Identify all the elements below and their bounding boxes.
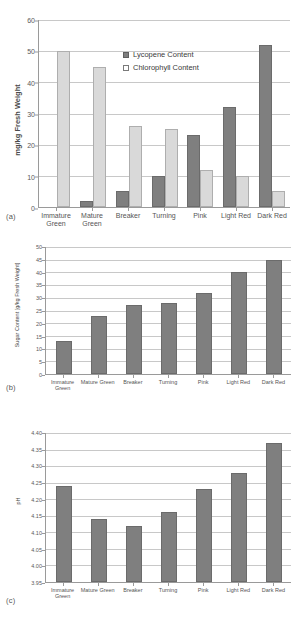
x-axis-category-label: Pink — [186, 379, 221, 392]
bar-group — [221, 247, 256, 374]
x-axis-category-label: Dark Red — [256, 587, 291, 600]
bar-series-a — [39, 20, 290, 207]
bar — [93, 67, 106, 207]
legend-entry: Chlorophyll Content — [123, 63, 199, 72]
y-tick-label: 25 — [36, 308, 42, 314]
bar-series-b — [46, 247, 291, 374]
y-tick-label: 4.15 — [31, 513, 42, 519]
y-tick-label: 15 — [36, 334, 42, 340]
bar-group — [46, 247, 81, 374]
x-axis-category-label: Immature Green — [45, 379, 80, 392]
y-tick-label: 4.35 — [31, 447, 42, 453]
figure-container: (a) mg/kg Fresh Weight 0102030405060 Imm… — [0, 0, 304, 625]
bar — [223, 107, 236, 207]
bar — [187, 135, 200, 207]
x-axis-category-label: Immature Green — [45, 587, 80, 600]
y-tick-label: 30 — [27, 111, 35, 118]
bar-group — [147, 20, 183, 207]
bar-group — [256, 247, 291, 374]
y-tick-label: 10 — [27, 173, 35, 180]
bar-group — [111, 20, 147, 207]
y-tick-label: 40 — [27, 79, 35, 86]
chart-panel-a: (a) mg/kg Fresh Weight 0102030405060 Imm… — [0, 0, 304, 232]
bar — [129, 126, 142, 207]
x-axis-category-label: Immature Green — [38, 212, 74, 228]
legend-swatch-lycopene — [123, 52, 129, 58]
y-tick-label: 4.40 — [31, 430, 42, 436]
bar — [196, 489, 212, 582]
bar — [126, 526, 142, 582]
x-axis-category-label: Mature Green — [80, 379, 115, 392]
bar — [231, 473, 247, 582]
x-axis-category-label: Light Red — [221, 379, 256, 392]
y-tick-label: 0 — [31, 205, 35, 212]
bar — [152, 176, 165, 207]
x-axis-labels-b: Immature GreenMature GreenBreakerTurning… — [45, 379, 291, 392]
x-axis-category-label: Dark Red — [254, 212, 290, 228]
bar — [57, 51, 70, 207]
bar-series-c — [46, 433, 291, 582]
panel-label-a: (a) — [6, 212, 16, 221]
y-tick-label: 4.20 — [31, 497, 42, 503]
y-tick-label: 50 — [36, 244, 42, 250]
bar — [91, 519, 107, 582]
plot-area-c — [45, 433, 291, 583]
panel-label-c: (c) — [6, 596, 15, 605]
x-axis-labels-a: Immature GreenMature GreenBreakerTurning… — [38, 212, 290, 228]
y-tick-label: 45 — [36, 257, 42, 263]
bar — [236, 176, 249, 207]
bar — [200, 170, 213, 207]
x-axis-category-label: Mature Green — [80, 587, 115, 600]
y-tick-label: 50 — [27, 48, 35, 55]
bar — [161, 512, 177, 582]
x-axis-category-label: Breaker — [115, 587, 150, 600]
y-tick-label: 20 — [36, 321, 42, 327]
legend-a: Lycopene ContentChlorophyll Content — [123, 50, 199, 76]
bar — [266, 260, 282, 374]
legend-label: Lycopene Content — [133, 50, 194, 59]
x-axis-category-label: Turning — [146, 212, 182, 228]
y-tick-label: 40 — [36, 270, 42, 276]
y-axis-ticks-c: 3.954.004.054.104.154.204.254.304.354.40 — [14, 433, 42, 583]
y-tick-label: 4.10 — [31, 530, 42, 536]
bar — [272, 191, 285, 207]
x-axis-category-label: Pink — [182, 212, 218, 228]
legend-swatch-chlorophyll — [123, 65, 129, 71]
bar — [126, 305, 142, 374]
x-axis-category-label: Breaker — [110, 212, 146, 228]
chart-panel-b: (b) Sugar Content [g/kg Fresh Weight] 05… — [0, 235, 304, 405]
y-tick-label: 3.95 — [31, 580, 42, 586]
x-axis-labels-c: Immature GreenMature GreenBreakerTurning… — [45, 587, 291, 600]
bar-group — [218, 20, 254, 207]
bar-group — [46, 433, 81, 582]
chart-panel-c: (c) pH 3.954.004.054.104.154.204.254.304… — [0, 408, 304, 623]
y-tick-label: 4.25 — [31, 480, 42, 486]
y-tick-label: 0 — [39, 372, 42, 378]
bar-group — [182, 20, 218, 207]
y-tick-label: 35 — [36, 282, 42, 288]
panel-label-b: (b) — [6, 383, 16, 392]
x-axis-category-label: Light Red — [218, 212, 254, 228]
bar — [80, 201, 93, 207]
bar-group — [116, 247, 151, 374]
y-tick-label: 10 — [36, 346, 42, 352]
bar-group — [186, 433, 221, 582]
bar-group — [116, 433, 151, 582]
bar-group — [254, 20, 290, 207]
x-axis-category-label: Turning — [150, 587, 185, 600]
bar-group — [81, 433, 116, 582]
bar-group — [151, 433, 186, 582]
plot-area-a — [38, 20, 290, 208]
legend-entry: Lycopene Content — [123, 50, 199, 59]
y-axis-ticks-b: 05101520253035404550 — [18, 247, 42, 375]
bar-group — [186, 247, 221, 374]
y-axis-ticks-a: 0102030405060 — [8, 20, 35, 208]
plot-area-b — [45, 247, 291, 375]
x-axis-category-label: Mature Green — [74, 212, 110, 228]
bar-group — [221, 433, 256, 582]
y-tick-label: 5 — [39, 359, 42, 365]
x-axis-category-label: Turning — [150, 379, 185, 392]
bar — [259, 45, 272, 207]
bar-group — [75, 20, 111, 207]
bar — [231, 272, 247, 374]
